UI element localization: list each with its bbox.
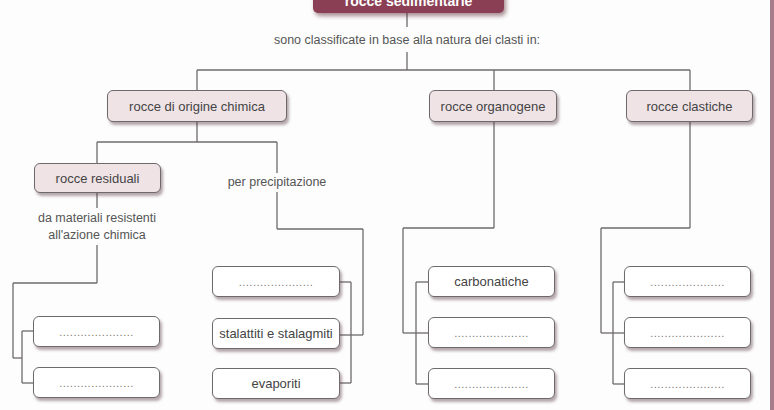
blank-placeholder: ..................... bbox=[239, 276, 314, 288]
answer-box[interactable]: ..................... bbox=[624, 317, 751, 348]
answer-box[interactable]: ..................... bbox=[428, 317, 555, 348]
category-label: rocce di origine chimica bbox=[129, 99, 265, 114]
answer-box[interactable]: ..................... bbox=[428, 368, 555, 399]
category-node-chimica: rocce di origine chimica bbox=[107, 90, 287, 122]
subcategory-node-residuali: rocce residuali bbox=[34, 163, 161, 193]
subtitle-label: sono classificate in base alla natura de… bbox=[257, 32, 557, 49]
answer-box[interactable]: ..................... bbox=[33, 367, 160, 398]
blank-placeholder: ..................... bbox=[59, 377, 134, 389]
blank-placeholder: ..................... bbox=[454, 378, 529, 390]
page-edge-strip bbox=[770, 0, 774, 410]
description-line: da materiali resistenti bbox=[27, 210, 167, 227]
answer-box[interactable]: ..................... bbox=[624, 368, 751, 399]
blank-placeholder: ..................... bbox=[454, 327, 529, 339]
blank-placeholder: ..................... bbox=[59, 326, 134, 338]
answer-box[interactable]: ..................... bbox=[33, 316, 160, 347]
evaporiti-node: evaporiti bbox=[212, 368, 340, 399]
category-node-organogene: rocce organogene bbox=[429, 90, 557, 122]
node-label: carbonatiche bbox=[454, 274, 528, 289]
node-label: evaporiti bbox=[251, 376, 300, 391]
stalattiti-node: stalattiti e stalagmiti bbox=[212, 318, 340, 349]
precipitazione-label: per precipitazione bbox=[207, 174, 347, 191]
answer-box[interactable]: ..................... bbox=[212, 266, 340, 297]
title-node: rocce sedimentarie bbox=[313, 0, 504, 13]
residuali-description: da materiali resistenti all'azione chimi… bbox=[27, 210, 167, 244]
carbonatiche-node: carbonatiche bbox=[428, 266, 555, 297]
blank-placeholder: ..................... bbox=[650, 327, 725, 339]
description-line: all'azione chimica bbox=[27, 227, 167, 244]
answer-box[interactable]: ..................... bbox=[624, 266, 751, 297]
subcategory-label: rocce residuali bbox=[56, 171, 140, 186]
title-label: rocce sedimentarie bbox=[345, 0, 473, 9]
blank-placeholder: ..................... bbox=[650, 276, 725, 288]
category-label: rocce organogene bbox=[441, 99, 546, 114]
blank-placeholder: ..................... bbox=[650, 378, 725, 390]
concept-map: rocce sedimentarie sono classificate in … bbox=[0, 0, 774, 410]
node-label: stalattiti e stalagmiti bbox=[219, 326, 332, 341]
connector-lines bbox=[0, 0, 774, 410]
category-node-clastiche: rocce clastiche bbox=[626, 90, 753, 122]
category-label: rocce clastiche bbox=[647, 99, 733, 114]
